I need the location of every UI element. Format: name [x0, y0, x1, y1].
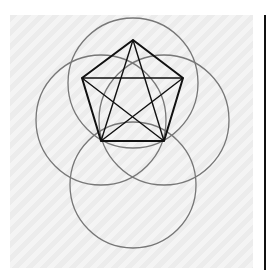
pentagram-diagram [0, 0, 266, 280]
left-circle [36, 55, 166, 185]
circles-group [36, 18, 229, 248]
right-circle [99, 55, 229, 185]
